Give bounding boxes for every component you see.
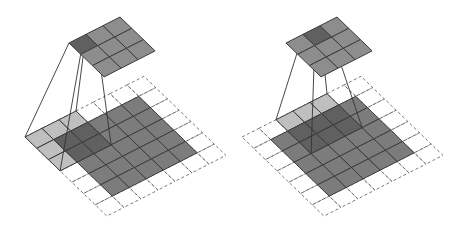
padding-cell (312, 196, 341, 216)
panel-step-1 (25, 17, 226, 216)
convolution-diagram (0, 0, 462, 233)
padding-cell (242, 128, 271, 148)
padding-cell (95, 196, 124, 216)
padding-cell (414, 144, 443, 164)
padding-cell (127, 76, 156, 96)
padding-cell (197, 144, 226, 164)
panel-step-2 (242, 17, 443, 216)
